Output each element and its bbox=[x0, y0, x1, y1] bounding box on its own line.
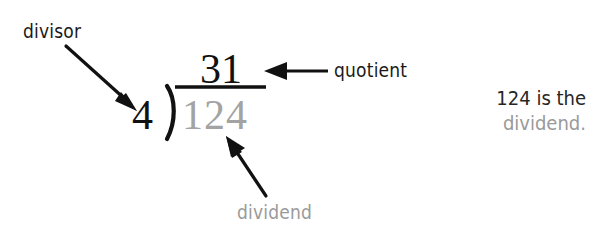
sidenote-line-2: dividend. bbox=[474, 111, 586, 136]
sidenote: 124 is the dividend. bbox=[474, 86, 586, 136]
long-division-diagram: divisor quotient dividend 31 4 124 124 i… bbox=[0, 0, 599, 233]
division-bracket-icon bbox=[167, 86, 174, 139]
divisor-value: 4 bbox=[132, 94, 153, 136]
quotient-label: quotient bbox=[334, 61, 407, 80]
dividend-value: 124 bbox=[182, 94, 248, 136]
quotient-value: 31 bbox=[200, 48, 242, 90]
divisor-arrow-icon bbox=[66, 46, 137, 111]
dividend-label: dividend bbox=[237, 203, 312, 222]
quotient-arrow-icon bbox=[264, 62, 328, 80]
divisor-label: divisor bbox=[23, 22, 81, 41]
sidenote-line-1: 124 is the bbox=[474, 86, 586, 111]
dividend-arrow-icon bbox=[226, 136, 266, 196]
